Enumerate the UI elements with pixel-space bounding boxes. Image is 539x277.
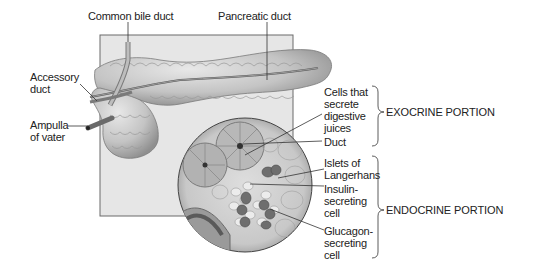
label-accessory-duct: Accessory duct <box>30 71 79 95</box>
label-duct: Duct <box>324 136 346 148</box>
exocrine-bracket <box>372 86 384 146</box>
label-common-bile-duct: Common bile duct <box>88 10 173 22</box>
label-pancreatic-duct: Pancreatic duct <box>218 10 291 22</box>
label-glucagon-secreting-cell: Glucagon- secreting cell <box>324 225 373 261</box>
label-islets-of-langerhans: Islets of Langerhans <box>324 157 380 181</box>
label-exocrine-portion: EXOCRINE PORTION <box>386 106 495 118</box>
label-cells-secrete-digestive-juices: Cells that secrete digestive juices <box>324 86 368 134</box>
label-insulin-secreting-cell: Insulin- secreting cell <box>324 183 367 219</box>
pancreas-illustration <box>0 0 539 277</box>
magnified-tissue-circle <box>175 118 312 260</box>
label-ampulla-of-vater: Ampulla of vater <box>30 119 68 143</box>
label-endocrine-portion: ENDOCRINE PORTION <box>386 204 503 216</box>
